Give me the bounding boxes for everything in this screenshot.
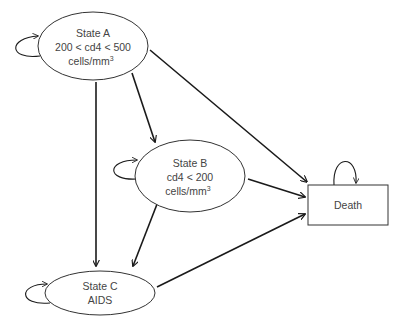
state-a-title: State A (76, 27, 110, 39)
state-a-unit: cells/mm3 (68, 55, 113, 67)
death-label: Death (334, 199, 362, 211)
state-c-title: State C (82, 280, 117, 292)
node-state-a: State A 200 < cd4 < 500 cells/mm3 (38, 12, 148, 80)
state-c-subtitle: AIDS (88, 294, 113, 306)
edge-a-to-b (132, 73, 155, 142)
state-a-range: 200 < cd4 < 500 (55, 41, 131, 53)
self-loop-a (16, 36, 40, 56)
node-state-c: State C AIDS (45, 271, 155, 315)
edge-c-to-death (157, 214, 305, 287)
state-b-title: State B (173, 157, 207, 169)
node-death: Death (308, 185, 388, 225)
state-b-unit: cells/mm3 (165, 185, 210, 197)
node-state-b: State B cd4 < 200 cells/mm3 (135, 140, 245, 212)
edge-b-to-c (133, 199, 159, 266)
self-loop-death (334, 161, 356, 185)
self-loop-b (114, 160, 137, 179)
state-b-range: cd4 < 200 (167, 171, 214, 183)
edge-b-to-death (248, 179, 305, 197)
state-diagram: State A 200 < cd4 < 500 cells/mm3 State … (0, 0, 401, 323)
